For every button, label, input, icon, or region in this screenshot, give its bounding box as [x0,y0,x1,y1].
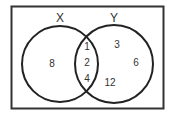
intersection-value-3: 4 [84,73,90,84]
set-x-label: X [56,11,64,25]
intersection-value-2: 2 [84,57,90,68]
intersection-value-1: 1 [84,41,90,52]
y-only-value-2: 6 [133,57,139,68]
venn-diagram: X Y 8 1 2 4 3 6 12 [0,0,172,115]
set-y-label: Y [110,11,118,25]
y-only-value-1: 3 [114,39,120,50]
x-only-value: 8 [49,58,55,69]
y-only-value-3: 12 [104,77,116,88]
